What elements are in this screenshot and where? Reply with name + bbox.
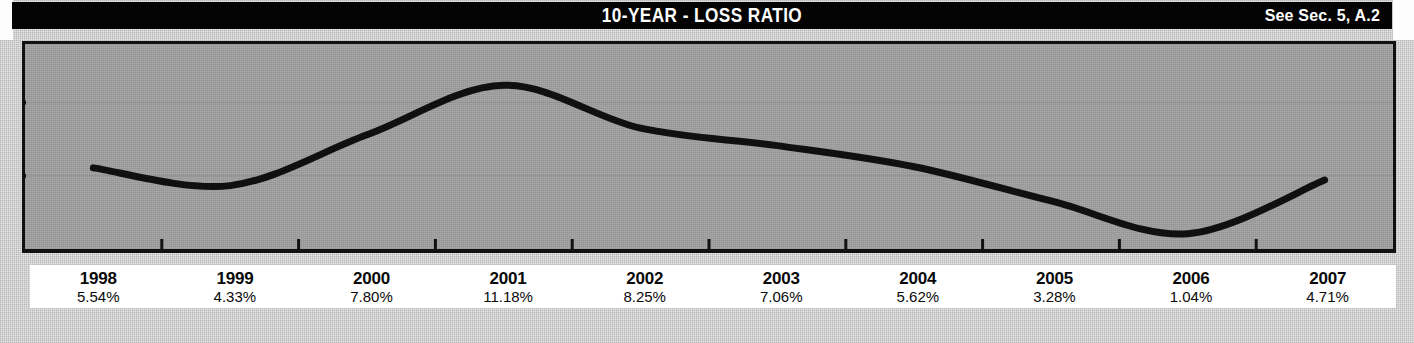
value-label: 7.80% (350, 288, 393, 305)
value-label: 8.25% (623, 288, 666, 305)
value-label: 11.18% (483, 288, 533, 305)
year-value-cell: 20053.28% (986, 265, 1123, 308)
year-label: 2001 (490, 269, 527, 288)
year-value-cell: 20074.71% (1259, 265, 1396, 308)
page-title: 10-YEAR - LOSS RATIO (109, 2, 1296, 29)
section-reference: See Sec. 5, A.2 (1265, 2, 1380, 29)
plot-svg (22, 41, 1396, 253)
year-label: 2007 (1309, 269, 1346, 288)
year-label: 2000 (353, 269, 390, 288)
value-label: 3.28% (1033, 288, 1076, 305)
year-label: 2002 (626, 269, 663, 288)
value-label: 4.33% (214, 288, 257, 305)
year-value-cell: 20007.80% (303, 265, 440, 308)
year-label: 2003 (763, 269, 800, 288)
year-value-cell: 200111.18% (440, 265, 577, 308)
year-value-strip: 19985.54%19994.33%20007.80%200111.18%200… (30, 265, 1396, 308)
year-label: 2004 (899, 269, 936, 288)
year-value-cell: 20061.04% (1123, 265, 1260, 308)
loss-ratio-line (93, 85, 1324, 234)
year-value-cell: 20037.06% (713, 265, 850, 308)
year-value-cell: 19994.33% (167, 265, 304, 308)
year-value-cell: 19985.54% (30, 265, 167, 308)
year-value-cell: 20045.62% (850, 265, 987, 308)
value-label: 4.71% (1306, 288, 1349, 305)
year-label: 2005 (1036, 269, 1073, 288)
year-label: 2006 (1173, 269, 1210, 288)
loss-ratio-chart (22, 41, 1396, 253)
value-label: 5.54% (77, 288, 120, 305)
year-value-cell: 20028.25% (576, 265, 713, 308)
year-label: 1998 (80, 269, 117, 288)
chart-header-band: 10-YEAR - LOSS RATIO See Sec. 5, A.2 (12, 2, 1392, 29)
value-label: 1.04% (1170, 288, 1213, 305)
year-label: 1999 (216, 269, 253, 288)
page-margin-right (1393, 0, 1414, 40)
value-label: 7.06% (760, 288, 803, 305)
value-label: 5.62% (897, 288, 940, 305)
